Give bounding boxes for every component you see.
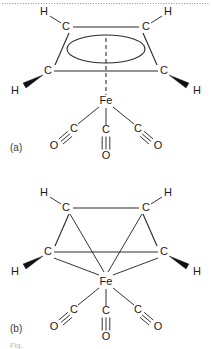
carbonyl-left-carbon-label: C [70,122,78,134]
figure-caption: Fig. [10,341,23,349]
wedge-bond-c3-h3 [169,75,189,88]
wedge-bond-c4-h4 [23,75,43,88]
bond-fe-co-right [113,288,134,305]
atom-label-c4: C [44,64,52,76]
carbonyl-center-carbon-label: C [102,123,110,135]
carbonyl-right-oxygen-label: O [154,320,163,332]
bond-fe-co-left [78,107,99,124]
carbonyl-center-oxygen-label: O [102,330,111,342]
wedge-bond-c3-h3 [169,256,189,269]
carbonyl-right-oxygen-label: O [154,139,163,151]
bond-c4-fe [54,258,99,275]
atom-label-c2: C [142,20,150,32]
carbonyl-right: C O [134,303,163,332]
atom-label-h1: H [40,5,48,17]
carbonyl-center-triple-bond [102,318,110,331]
carbonyl-right: C O [134,122,163,151]
atom-label-h3: H [193,84,201,96]
panel-label-a: (a) [10,142,22,153]
bond-c2-h2 [151,197,162,204]
atom-label-c2: C [142,201,150,213]
bond-c3-fe [113,258,158,275]
bond-c1-c4 [55,214,69,246]
atom-label-fe: Fe [100,275,113,287]
carbonyl-left-oxygen-label: O [50,320,59,332]
panel-b: C C C C H H H H Fe C O [10,186,201,342]
atom-label-fe: Fe [100,94,113,106]
carbonyl-left-carbon-label: C [70,303,78,315]
atom-label-c1: C [62,201,70,213]
carbonyl-center-oxygen-label: O [102,149,111,161]
atom-label-h4: H [11,84,19,96]
panel-a: C C C C H H H H Fe C O [10,5,201,161]
atom-label-c3: C [160,245,168,257]
atom-label-c4: C [44,245,52,257]
carbonyl-center: C O [102,123,111,161]
carbonyl-left-oxygen-label: O [50,139,59,151]
carbonyl-left: C O [50,122,78,151]
panel-b-metal-carbon-bonds [54,214,158,275]
bond-c1-fe [70,214,104,272]
carbonyl-right-carbon-label: C [134,122,142,134]
wedge-bond-c4-h4 [23,256,43,269]
chemical-structure-diagram: C C C C H H H H Fe C O [0,0,212,349]
panel-b-ring-bonds [54,208,158,252]
bond-c2-h2 [151,16,162,23]
bond-fe-co-left [78,288,99,305]
carbonyl-right-carbon-label: C [134,303,142,315]
atom-label-h3: H [193,265,201,277]
carbonyl-left: C O [50,303,78,332]
atom-label-h2: H [164,186,172,198]
figure-root: C C C C H H H H Fe C O [0,0,212,349]
atom-label-c3: C [160,64,168,76]
carbonyl-center: C O [102,304,111,342]
atom-label-h2: H [164,5,172,17]
panel-label-b: (b) [10,323,22,334]
bond-fe-co-right [113,107,134,124]
bond-c2-c3 [143,214,157,246]
atom-label-c1: C [62,20,70,32]
bond-c1-h1 [50,197,61,204]
bond-c1-h1 [50,16,61,23]
atom-label-h1: H [40,186,48,198]
atom-label-h4: H [11,265,19,277]
bond-c2-fe [108,214,142,272]
carbonyl-center-triple-bond [102,137,110,150]
carbonyl-center-carbon-label: C [102,304,110,316]
